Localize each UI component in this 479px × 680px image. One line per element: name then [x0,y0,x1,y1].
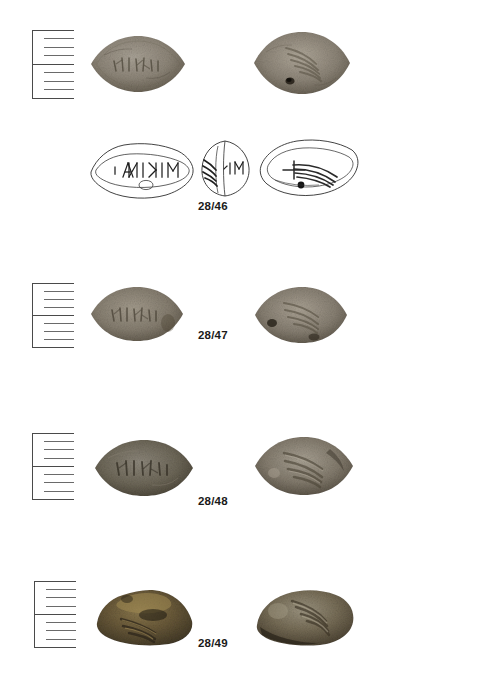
catalogue-number-28-46: 28/46 [198,200,228,212]
drawing-reverse-28-46 [257,136,361,200]
drawing-obverse-28-46 [86,139,198,201]
photo-obverse-28-47 [88,283,186,345]
photo-reverse-28-47 [252,283,350,347]
photo-obverse-28-49 [93,583,197,649]
photo-obverse-28-48 [92,437,196,499]
photo-reverse-28-48 [252,433,356,499]
photo-obverse-28-46 [88,31,188,97]
catalogue-number-28-49: 28/49 [198,637,228,649]
scale-bar-row-1 [30,29,76,99]
photo-reverse-28-46 [252,26,352,100]
catalogue-number-28-48: 28/48 [198,495,228,507]
scale-bar-row-2 [30,282,76,348]
photo-reverse-28-49 [254,583,358,649]
scale-bar-row-3 [30,432,76,500]
catalogue-plate: 28/46 [0,0,479,680]
drawing-section-28-46 [198,138,252,200]
scale-bar-row-4 [32,580,78,648]
catalogue-number-28-47: 28/47 [198,329,228,341]
